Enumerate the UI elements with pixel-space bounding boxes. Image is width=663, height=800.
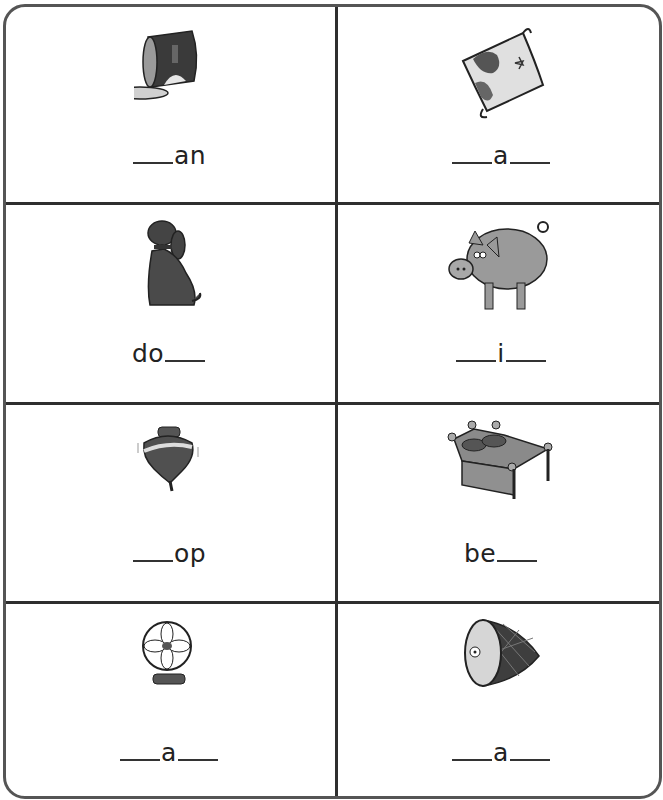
cell-bed: be — [338, 405, 663, 601]
blank-line[interactable] — [497, 558, 537, 562]
blank-line[interactable] — [133, 160, 173, 164]
treasure-map-icon — [453, 21, 549, 121]
bed-icon — [444, 419, 558, 499]
blank-line[interactable] — [452, 160, 492, 164]
word-fragment: i — [497, 339, 504, 368]
word-fragment: a — [161, 738, 177, 767]
word-prompt: a — [6, 738, 332, 767]
tin-can-icon — [134, 25, 204, 105]
blank-line[interactable] — [178, 757, 218, 761]
spinning-top-icon — [134, 423, 204, 493]
cell-can: an — [6, 7, 332, 203]
word-fragment: a — [493, 141, 509, 170]
blank-line[interactable] — [456, 358, 496, 362]
cell-ham: a — [338, 604, 663, 800]
cell-spinning-top: op — [6, 405, 332, 601]
cell-map: a — [338, 7, 663, 203]
worksheet-frame: an a do — [3, 4, 662, 799]
word-fragment: be — [464, 539, 496, 568]
word-prompt: a — [338, 738, 663, 767]
blank-line[interactable] — [510, 757, 550, 761]
word-fragment: do — [132, 339, 164, 368]
cell-dog: do — [6, 205, 332, 401]
word-prompt: op — [6, 539, 332, 568]
ham-icon — [459, 616, 543, 688]
word-prompt: do — [6, 339, 332, 368]
blank-line[interactable] — [165, 358, 205, 362]
blank-line[interactable] — [452, 757, 492, 761]
blank-line[interactable] — [133, 558, 173, 562]
word-prompt: a — [338, 141, 663, 170]
pig-icon — [441, 213, 561, 313]
blank-line[interactable] — [506, 358, 546, 362]
word-prompt: be — [338, 539, 663, 568]
word-fragment: an — [174, 141, 206, 170]
word-prompt: i — [338, 339, 663, 368]
word-fragment: a — [493, 738, 509, 767]
blank-line[interactable] — [510, 160, 550, 164]
cell-fan: a — [6, 604, 332, 800]
word-prompt: an — [6, 141, 332, 170]
blank-line[interactable] — [120, 757, 160, 761]
word-fragment: op — [174, 539, 206, 568]
dog-icon — [134, 215, 204, 311]
cell-pig: i — [338, 205, 663, 401]
fan-icon — [139, 620, 199, 686]
